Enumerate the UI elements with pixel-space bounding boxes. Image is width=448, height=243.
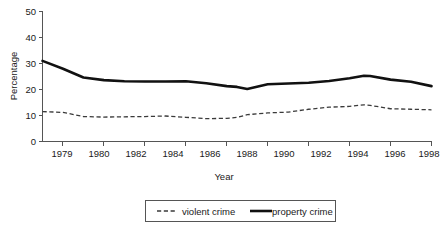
x-tick-label-1980: 1980	[88, 148, 109, 159]
x-tick-label-1988: 1988	[236, 148, 257, 159]
y-tick-label-20: 20	[25, 84, 36, 95]
x-tick-label-1979: 1979	[51, 148, 72, 159]
x-tick-label-1996: 1996	[384, 148, 405, 159]
x-tick-label-1998: 1998	[418, 148, 439, 159]
line-chart: 50 40 30 20 10 0 Percentage 1979 1980 19	[0, 0, 448, 243]
y-tick-label-30: 30	[25, 58, 36, 69]
x-tick-label-1982: 1982	[125, 148, 146, 159]
x-tick-label-1990: 1990	[273, 148, 294, 159]
x-tick-label-1986: 1986	[199, 148, 220, 159]
x-tick-label-1992: 1992	[310, 148, 331, 159]
y-tick-label-10: 10	[25, 110, 36, 121]
x-axis-title: Year	[214, 171, 233, 182]
chart-figure: 50 40 30 20 10 0 Percentage 1979 1980 19	[0, 0, 448, 243]
x-tick-label-1984: 1984	[162, 148, 183, 159]
x-tick-label-1994: 1994	[347, 148, 368, 159]
y-axis-title: Percentage	[8, 52, 19, 101]
y-tick-label-0: 0	[31, 136, 36, 147]
chart-legend: violent crime property crime	[146, 201, 336, 222]
y-tick-label-50: 50	[25, 6, 36, 17]
legend-label-violent-crime: violent crime	[182, 206, 235, 217]
y-tick-label-40: 40	[25, 32, 36, 43]
legend-label-property-crime: property crime	[272, 206, 333, 217]
